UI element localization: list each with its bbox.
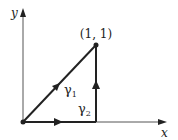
path-diagram: y x γ1 γ2 (1, 1): [0, 0, 178, 140]
gamma2-horizontal-arrow-icon: [54, 118, 63, 126]
x-axis-arrowhead-icon: [158, 119, 167, 125]
gamma2-vertical-arrow-icon: [92, 80, 100, 89]
endpoint: [94, 43, 99, 48]
x-axis-label: x: [161, 126, 168, 140]
gamma2-label: γ2: [78, 101, 91, 118]
origin-point: [21, 120, 26, 125]
endpoint-label: (1, 1): [80, 27, 112, 41]
gamma1-label: γ1: [64, 82, 77, 99]
y-axis-label: y: [10, 6, 18, 20]
y-axis-arrowhead-icon: [20, 8, 26, 17]
